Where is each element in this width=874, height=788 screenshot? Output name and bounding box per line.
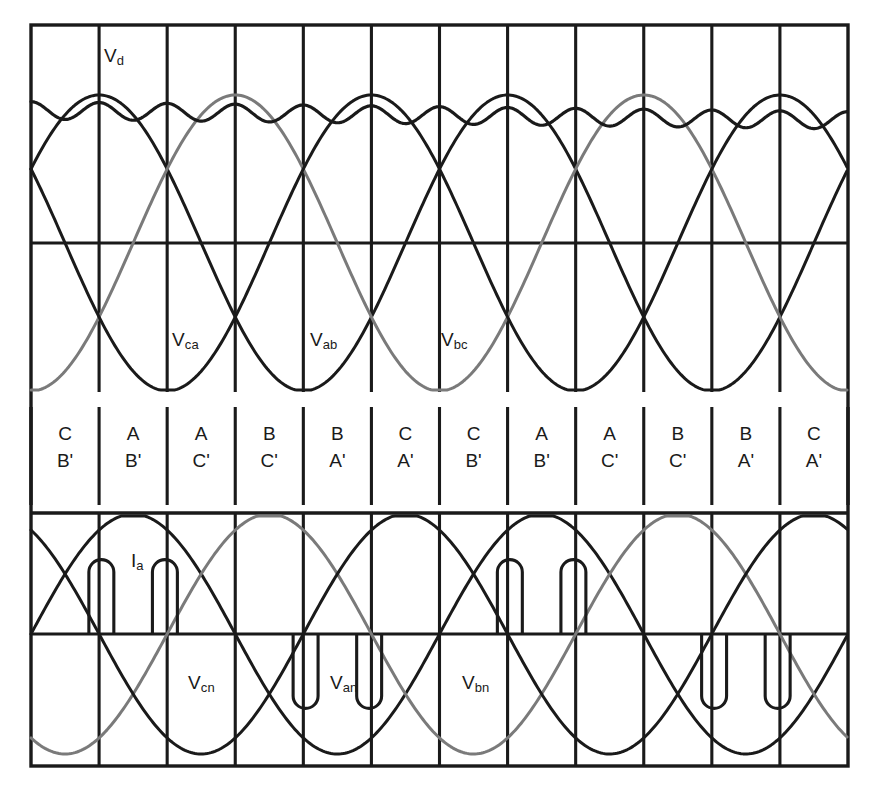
label-vbn: Vbn bbox=[462, 673, 490, 692]
conducting-upper-device: C bbox=[371, 421, 439, 448]
conducting-upper-device: B bbox=[712, 421, 780, 448]
label-van: Van bbox=[330, 673, 358, 692]
label-vbc-base: V bbox=[441, 329, 454, 350]
conduction-interval-5: BA' bbox=[303, 421, 371, 475]
conducting-upper-device: B bbox=[235, 421, 303, 448]
conducting-lower-device: B' bbox=[99, 448, 167, 475]
conduction-interval-12: CA' bbox=[780, 421, 848, 475]
label-vab-subscript: ab bbox=[323, 337, 338, 352]
conducting-lower-device: C' bbox=[576, 448, 644, 475]
conducting-upper-device: A bbox=[508, 421, 576, 448]
conducting-lower-device: A' bbox=[303, 448, 371, 475]
conducting-lower-device: A' bbox=[371, 448, 439, 475]
label-ia: Ia bbox=[131, 551, 144, 570]
conduction-interval-8: AB' bbox=[508, 421, 576, 475]
label-vca-subscript: ca bbox=[185, 337, 199, 352]
rectifier-waveform-figure: VdVcaVabVbcIaVcnVanVbn CB'AB'AC'BC'BA'CA… bbox=[0, 0, 874, 788]
conduction-interval-2: AB' bbox=[99, 421, 167, 475]
conduction-interval-1: CB' bbox=[31, 421, 99, 475]
conducting-upper-device: B bbox=[644, 421, 712, 448]
conduction-interval-9: AC' bbox=[576, 421, 644, 475]
label-vbc: Vbc bbox=[441, 330, 468, 349]
conducting-lower-device: C' bbox=[167, 448, 235, 475]
conducting-lower-device: C' bbox=[644, 448, 712, 475]
label-vab-base: V bbox=[310, 329, 323, 350]
conducting-upper-device: C bbox=[31, 421, 99, 448]
waveform-canvas bbox=[0, 0, 874, 788]
label-ia-subscript: a bbox=[136, 558, 143, 573]
conducting-lower-device: B' bbox=[440, 448, 508, 475]
label-vca: Vca bbox=[172, 330, 199, 349]
label-vbc-subscript: bc bbox=[454, 337, 468, 352]
conducting-lower-device: B' bbox=[31, 448, 99, 475]
conduction-interval-11: BA' bbox=[712, 421, 780, 475]
conduction-interval-7: CB' bbox=[440, 421, 508, 475]
conducting-lower-device: B' bbox=[508, 448, 576, 475]
label-vcn-base: V bbox=[188, 672, 201, 693]
conducting-upper-device: A bbox=[167, 421, 235, 448]
conducting-lower-device: C' bbox=[235, 448, 303, 475]
label-vbn-subscript: bn bbox=[475, 680, 490, 695]
label-vd-subscript: d bbox=[117, 53, 124, 68]
conduction-interval-4: BC' bbox=[235, 421, 303, 475]
label-vab: Vab bbox=[310, 330, 338, 349]
conducting-lower-device: A' bbox=[780, 448, 848, 475]
conduction-interval-6: CA' bbox=[371, 421, 439, 475]
label-vcn: Vcn bbox=[188, 673, 215, 692]
label-vd: Vd bbox=[104, 46, 124, 65]
label-vca-base: V bbox=[172, 329, 185, 350]
label-vd-base: V bbox=[104, 45, 117, 66]
conducting-upper-device: A bbox=[576, 421, 644, 448]
conduction-interval-3: AC' bbox=[167, 421, 235, 475]
label-vcn-subscript: cn bbox=[201, 680, 215, 695]
conducting-upper-device: B bbox=[303, 421, 371, 448]
conducting-upper-device: C bbox=[440, 421, 508, 448]
conducting-upper-device: A bbox=[99, 421, 167, 448]
label-van-subscript: an bbox=[343, 680, 358, 695]
conducting-lower-device: A' bbox=[712, 448, 780, 475]
label-vbn-base: V bbox=[462, 672, 475, 693]
conducting-upper-device: C bbox=[780, 421, 848, 448]
conduction-interval-10: BC' bbox=[644, 421, 712, 475]
label-van-base: V bbox=[330, 672, 343, 693]
